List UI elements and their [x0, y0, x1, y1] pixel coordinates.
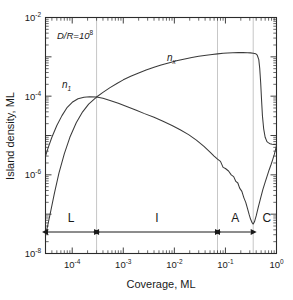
parameter-annotation: D/R=108 [57, 29, 93, 41]
x-axis-title: Coverage, ML [126, 278, 195, 290]
y-axis-title: Island density, ML [4, 92, 16, 180]
x-tick-exponent-4: 0 [280, 258, 284, 265]
region-label-C: C [263, 211, 272, 225]
y-tick-mantissa-0: 10 [25, 12, 36, 23]
figure-container: 10-210-410-610-8 10-410-310-210-1100 Cov… [0, 0, 293, 300]
parameter-annotation-exponent: 8 [89, 29, 93, 36]
y-tick-mantissa-2: 10 [25, 169, 36, 180]
x-tick-exponent-2: -2 [177, 258, 183, 265]
x-tick-mantissa-2: 10 [166, 259, 177, 270]
x-tick-mantissa-3: 10 [217, 259, 228, 270]
x-tick-exponent-3: -1 [228, 258, 234, 265]
y-tick-exponent-1: -4 [35, 90, 41, 97]
chart-background [0, 0, 293, 300]
y-tick-exponent-0: -2 [35, 11, 41, 18]
y-tick-exponent-2: -6 [35, 168, 41, 175]
x-tick-mantissa-4: 10 [269, 259, 280, 270]
y-tick-mantissa-3: 10 [25, 248, 36, 259]
x-tick-mantissa-0: 10 [64, 259, 75, 270]
region-label-I: I [155, 211, 158, 225]
y-tick-mantissa-1: 10 [25, 91, 36, 102]
y-tick-exponent-3: -8 [35, 247, 41, 254]
region-label-A: A [231, 211, 239, 225]
x-tick-exponent-1: -3 [126, 258, 132, 265]
x-tick-mantissa-1: 10 [115, 259, 126, 270]
x-tick-exponent-0: -4 [75, 258, 81, 265]
parameter-annotation-text: D/R=10 [57, 30, 90, 41]
region-label-L: L [68, 211, 75, 225]
chart-svg: 10-210-410-610-8 10-410-310-210-1100 Cov… [0, 0, 293, 300]
curve-label-n1-subscript: 1 [68, 85, 72, 92]
